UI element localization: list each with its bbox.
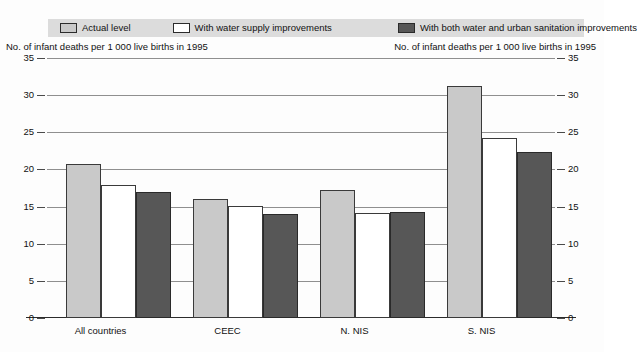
y-tick-right-25 <box>557 132 565 133</box>
legend-item-water-sanitation: With both water and urban sanitation imp… <box>398 19 637 37</box>
legend-swatch-water-sanitation <box>398 23 415 33</box>
bar-all-countries-series-1 <box>101 185 136 318</box>
y-tick-label-right-5: 5 <box>568 276 573 286</box>
y-axis-caption-right: No. of infant deaths per 1 000 live birt… <box>394 41 596 52</box>
legend-label-actual: Actual level <box>82 23 131 33</box>
y-tick-left-10 <box>37 244 45 245</box>
bar-n-nis-series-1 <box>355 213 390 318</box>
x-category-label-ceec: CEEC <box>214 326 240 336</box>
y-tick-left-25 <box>37 132 45 133</box>
y-tick-right-5 <box>557 281 565 282</box>
y-tick-label-right-10: 10 <box>568 239 579 249</box>
y-tick-left-30 <box>37 95 45 96</box>
y-tick-left-15 <box>37 207 45 208</box>
bar-ceec-series-0 <box>193 199 228 318</box>
legend-label-water: With water supply improvements <box>195 23 332 33</box>
y-tick-label-right-0: 0 <box>568 313 573 323</box>
legend-item-water: With water supply improvements <box>173 19 332 37</box>
y-tick-label-left-25: 25 <box>23 127 34 137</box>
bar-s-nis-series-0 <box>447 86 482 319</box>
y-tick-left-5 <box>37 281 45 282</box>
y-tick-right-15 <box>557 207 565 208</box>
bar-s-nis-series-2 <box>517 152 552 318</box>
y-tick-label-right-35: 35 <box>568 53 579 63</box>
y-tick-right-0 <box>557 318 565 319</box>
y-tick-label-left-0: 0 <box>29 313 34 323</box>
y-tick-left-20 <box>37 169 45 170</box>
bar-all-countries-series-2 <box>136 192 171 318</box>
legend-swatch-water <box>173 23 190 33</box>
y-tick-label-right-30: 30 <box>568 90 579 100</box>
y-axis-caption-left: No. of infant deaths per 1 000 live birt… <box>6 41 208 52</box>
bar-n-nis-series-0 <box>320 190 355 318</box>
legend-label-water-sanitation: With both water and urban sanitation imp… <box>420 23 637 33</box>
y-tick-right-30 <box>557 95 565 96</box>
y-tick-left-0 <box>37 318 45 319</box>
y-tick-label-right-25: 25 <box>568 127 579 137</box>
y-tick-right-10 <box>557 244 565 245</box>
x-category-label-n-nis: N. NIS <box>341 326 369 336</box>
y-tick-label-right-20: 20 <box>568 164 579 174</box>
plot-area: 0055101015152020252530303535All countrie… <box>47 58 555 318</box>
y-tick-right-20 <box>557 169 565 170</box>
y-tick-left-35 <box>37 58 45 59</box>
x-category-label-s-nis: S. NIS <box>468 326 495 336</box>
y-tick-label-left-15: 15 <box>23 202 34 212</box>
x-category-label-all-countries: All countries <box>75 326 127 336</box>
bar-ceec-series-2 <box>263 214 298 318</box>
y-tick-label-left-20: 20 <box>23 164 34 174</box>
chart-legend: Actual level With water supply improveme… <box>48 19 584 37</box>
y-tick-label-left-10: 10 <box>23 239 34 249</box>
legend-swatch-actual <box>60 23 77 33</box>
bar-n-nis-series-2 <box>390 212 425 318</box>
gridline-35 <box>47 58 555 59</box>
bar-s-nis-series-1 <box>482 138 517 319</box>
y-tick-label-left-5: 5 <box>29 276 34 286</box>
y-tick-label-left-35: 35 <box>23 53 34 63</box>
legend-item-actual: Actual level <box>60 19 131 37</box>
bar-ceec-series-1 <box>228 206 263 318</box>
bar-all-countries-series-0 <box>66 164 101 318</box>
y-tick-right-35 <box>557 58 565 59</box>
y-tick-label-right-15: 15 <box>568 202 579 212</box>
y-tick-label-left-30: 30 <box>23 90 34 100</box>
